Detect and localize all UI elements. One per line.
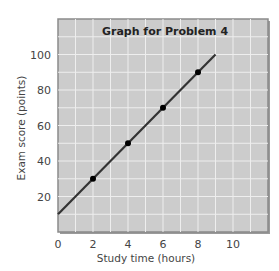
y-tick-label: 60 bbox=[37, 120, 51, 133]
chart: 0246810 20406080100 Study time (hours) E… bbox=[0, 0, 279, 271]
x-tick-label: 8 bbox=[195, 238, 202, 251]
y-tick-label: 80 bbox=[37, 84, 51, 97]
data-point bbox=[90, 176, 96, 182]
y-axis-ticks: 20406080100 bbox=[30, 49, 51, 204]
x-axis-ticks: 0246810 bbox=[55, 238, 241, 251]
data-point bbox=[125, 140, 131, 146]
x-tick-label: 10 bbox=[226, 238, 240, 251]
chart-title: Graph for Problem 4 bbox=[102, 25, 228, 38]
x-tick-label: 6 bbox=[160, 238, 167, 251]
x-tick-label: 2 bbox=[90, 238, 97, 251]
y-tick-label: 40 bbox=[37, 155, 51, 168]
plot-area bbox=[58, 19, 270, 234]
x-tick-label: 0 bbox=[55, 238, 62, 251]
y-tick-label: 100 bbox=[30, 49, 51, 62]
y-axis-label: Exam score (points) bbox=[15, 76, 27, 181]
y-tick-label: 20 bbox=[37, 191, 51, 204]
data-point bbox=[160, 105, 166, 111]
x-axis-label: Study time (hours) bbox=[97, 252, 195, 264]
x-tick-label: 4 bbox=[125, 238, 132, 251]
data-point bbox=[195, 69, 201, 75]
